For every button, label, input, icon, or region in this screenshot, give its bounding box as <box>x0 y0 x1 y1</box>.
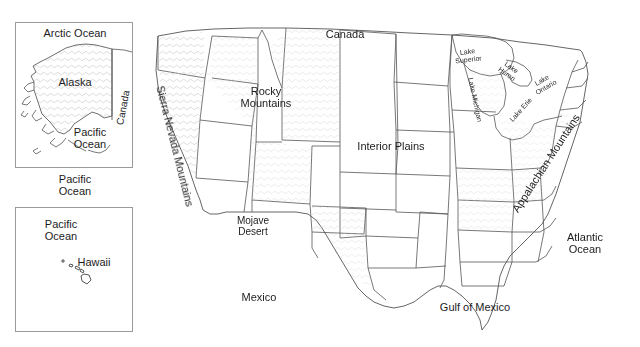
mainland-shading <box>158 30 572 290</box>
map-root: Arctic Ocean Alaska Canada Pacific Ocean… <box>0 0 640 347</box>
hawaii-inset-frame <box>15 207 133 332</box>
alaska-inset-frame <box>15 22 133 168</box>
